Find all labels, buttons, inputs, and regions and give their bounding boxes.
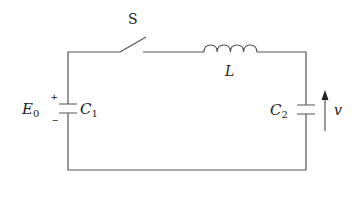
arrow-head-icon [322, 90, 329, 100]
c1-label: C1 [80, 102, 98, 119]
e0-letter: E [22, 100, 33, 118]
wire-right-top [257, 52, 306, 105]
c2-letter: C [270, 101, 281, 119]
c1-letter: C [80, 100, 91, 118]
capacitor-c2 [297, 105, 315, 114]
c1-minus-sign: − [52, 115, 58, 126]
voltage-label: v [334, 103, 342, 117]
wire-left-top [68, 52, 120, 104]
capacitor-c1 [59, 104, 77, 113]
c2-label: C2 [270, 103, 288, 120]
wire-bottom [68, 113, 306, 170]
c2-subscript: 2 [281, 109, 287, 120]
inductor-l [204, 45, 257, 52]
switch-label: S [128, 12, 138, 26]
switch-s [120, 37, 146, 52]
e0-label: E0 [22, 102, 39, 119]
c1-subscript: 1 [91, 108, 97, 119]
c1-plus-sign: + [51, 92, 57, 103]
e0-subscript: 0 [33, 108, 39, 119]
inductor-label: L [225, 64, 234, 78]
